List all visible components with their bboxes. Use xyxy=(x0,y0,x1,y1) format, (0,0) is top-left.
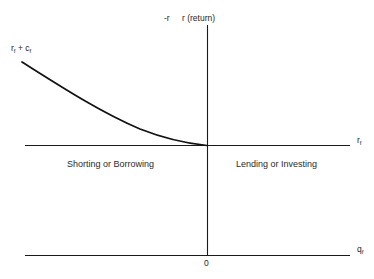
region-label-shorting-borrowing: Shorting or Borrowing xyxy=(67,160,154,169)
region-label-lending-investing: Lending or Investing xyxy=(236,160,317,169)
chart-figure: -r r (return) rf + cf rf qf Shorting or … xyxy=(0,0,374,279)
curve-start-label: rf + cf xyxy=(11,44,31,53)
chart-canvas xyxy=(0,0,374,279)
curve-label-sub-f: f xyxy=(14,48,16,54)
rf-label-sub: f xyxy=(360,140,362,146)
origin-label: 0 xyxy=(204,259,209,268)
rf-axis-label: rf xyxy=(357,136,362,145)
qf-axis-label: qf xyxy=(357,245,363,254)
curve-label-sub-f2: f xyxy=(29,48,31,54)
borrowing-cost-curve xyxy=(22,62,207,146)
negative-return-axis-label: -r xyxy=(164,14,170,23)
return-axis-label: r (return) xyxy=(182,14,215,23)
curve-label-plus-c: + c xyxy=(16,43,30,53)
